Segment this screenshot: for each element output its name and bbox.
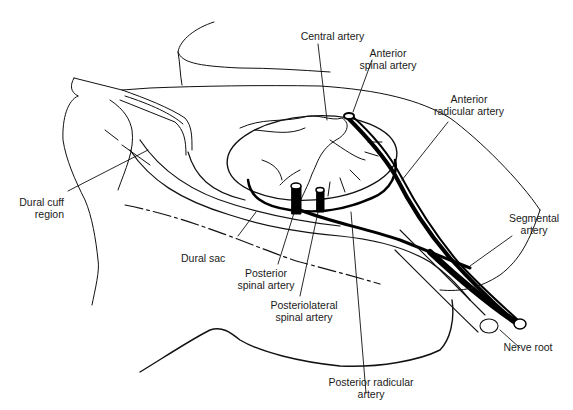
label-line: Anterior [420, 93, 518, 105]
arteries [248, 113, 526, 329]
label-line: Dural cuff [6, 196, 64, 208]
label-line: spinal artery [353, 59, 423, 71]
posterior-spinal-artery-vessel [292, 186, 301, 214]
label-line: radicular artery [420, 105, 518, 117]
label-line: Anterior [353, 47, 423, 59]
label-line: region [6, 208, 64, 220]
label-posterior-radicular-artery: Posterior radicular artery [321, 376, 421, 400]
label-line: Segmental [502, 212, 566, 224]
label-line: spinal artery [230, 279, 302, 291]
label-line: artery [502, 224, 566, 236]
label-posteriolateral-spinal-artery: Posteriolateral spinal artery [262, 299, 346, 323]
label-anterior-radicular-artery: Anterior radicular artery [420, 93, 518, 117]
label-anterior-spinal-artery: Anterior spinal artery [353, 47, 423, 71]
label-line: Posteriolateral [262, 299, 346, 311]
label-line: Nerve root [494, 341, 562, 353]
label-dural-sac: Dural sac [181, 252, 241, 264]
label-line: Dural sac [181, 252, 241, 264]
label-segmental-artery: Segmental artery [502, 212, 566, 236]
dural-cuff-sleeve [120, 90, 192, 155]
posterior-radicular-vessel [300, 210, 470, 268]
label-line: Posterior [230, 267, 302, 279]
label-line: spinal artery [262, 311, 346, 323]
vertebra-left-body [63, 96, 150, 305]
label-line: Posterior radicular [321, 376, 421, 388]
spinal-anatomy-illustration [0, 0, 573, 410]
label-posterior-spinal-artery: Posterior spinal artery [230, 267, 302, 291]
label-line: Central artery [285, 30, 380, 42]
label-dural-cuff-region: Dural cuff region [6, 196, 64, 220]
label-central-artery: Central artery [285, 30, 380, 42]
label-nerve-root: Nerve root [494, 341, 562, 353]
label-line: artery [321, 388, 421, 400]
